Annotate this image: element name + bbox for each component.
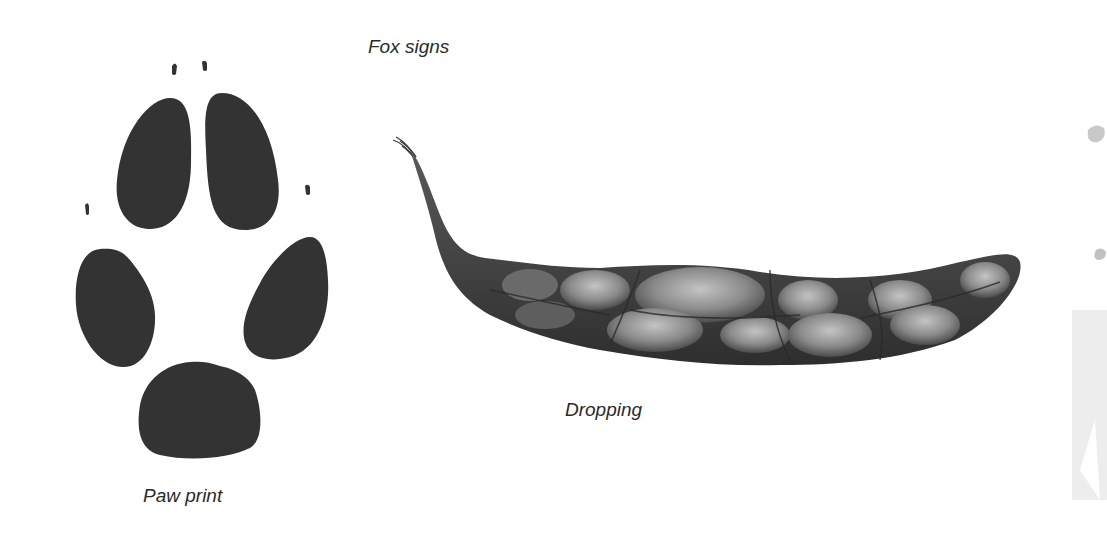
paw-print-label: Paw print [143,485,222,507]
claw-mark [305,185,310,195]
claw-mark [172,64,177,76]
claw-mark [202,61,207,71]
adjacent-illustration-fragment [1072,125,1107,500]
dropping-illustration [393,137,1021,365]
claw-mark [85,203,89,215]
toe-pad-left [76,249,155,367]
paw-print-illustration [76,61,329,459]
toe-pad-top-left [117,98,192,229]
toe-pad-top-right [205,93,279,230]
main-pad [139,362,261,459]
illustration-canvas [0,0,1107,535]
toe-pad-right [243,237,328,359]
dropping-label: Dropping [565,399,642,421]
